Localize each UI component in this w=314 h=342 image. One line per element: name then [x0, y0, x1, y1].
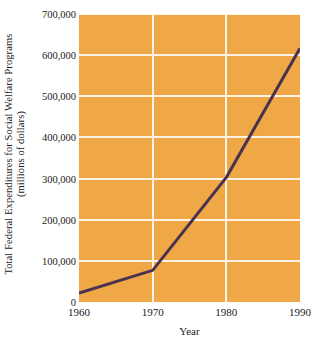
- x-axis-tick-label: 1980: [196, 306, 256, 318]
- y-axis-tick-label: 600,000: [6, 50, 76, 61]
- x-axis-tick-label: 1970: [123, 306, 183, 318]
- y-axis-title-line1: Total Federal Expenditures for Social We…: [3, 34, 15, 275]
- x-axis-title: Year: [79, 325, 300, 337]
- y-axis-tick-label: 200,000: [6, 214, 76, 225]
- y-axis-title-line2: (millions of dollars): [15, 34, 27, 275]
- data-series-line: [79, 14, 300, 302]
- y-axis-tick-label: 500,000: [6, 91, 76, 102]
- y-axis-tick-label: 300,000: [6, 173, 76, 184]
- y-axis-title-text: Total Federal Expenditures for Social We…: [3, 34, 27, 275]
- chart-figure: Total Federal Expenditures for Social We…: [0, 0, 314, 342]
- y-axis-tick-label: 400,000: [6, 132, 76, 143]
- y-axis-tick-label: 700,000: [6, 9, 76, 20]
- plot-area: [79, 14, 300, 302]
- x-axis-tick-label: 1960: [49, 306, 109, 318]
- x-axis-tick-label: 1990: [270, 306, 314, 318]
- y-axis-tick-label: 100,000: [6, 255, 76, 266]
